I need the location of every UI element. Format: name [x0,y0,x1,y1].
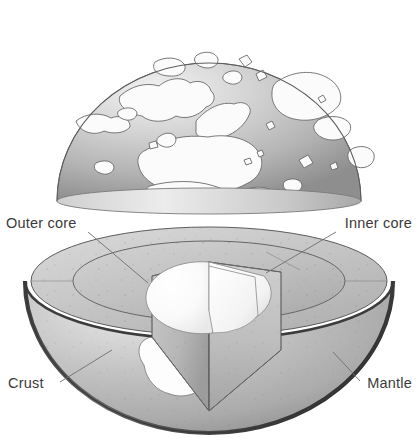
globe-cut-face [57,188,361,214]
label-outer-core: Outer core [6,215,77,231]
label-crust: Crust [8,375,44,391]
globe-dome [57,52,374,214]
label-inner-core: Inner core [345,215,412,231]
earth-structure-figure: Outer core Inner core Crust Mantle [0,0,418,447]
earth-interior-cutaway [25,227,393,433]
earth-cutaway-illustration: Outer core Inner core Crust Mantle [0,0,418,447]
label-mantle: Mantle [367,375,412,391]
